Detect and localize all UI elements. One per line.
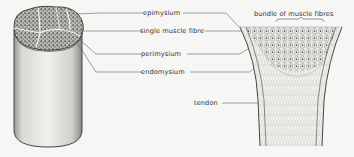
label-epimysium: epimysium [143, 10, 180, 17]
label-bundle-of-muscle-fibres: bundle of muscle fibres [254, 11, 334, 18]
diagram-drawing [0, 0, 354, 157]
left-leader-lines [76, 13, 143, 72]
label-tendon: tendon [194, 100, 218, 107]
muscle-diagram: epimysium single muscle fibre perimysium… [0, 0, 354, 157]
tendon-figure [240, 27, 342, 146]
label-perimysium: perimysium [141, 51, 181, 58]
label-single-muscle-fibre: single muscle fibre [140, 28, 204, 35]
label-endomysium: endomysium [141, 69, 185, 76]
muscle-cylinder [14, 6, 83, 147]
